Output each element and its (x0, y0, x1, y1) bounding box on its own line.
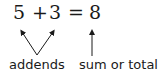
addends-label: addends (9, 57, 65, 73)
addend-2-arrow-icon (37, 32, 53, 55)
addend-1-arrow-icon (22, 32, 37, 55)
sum-label: sum or total (79, 57, 158, 73)
